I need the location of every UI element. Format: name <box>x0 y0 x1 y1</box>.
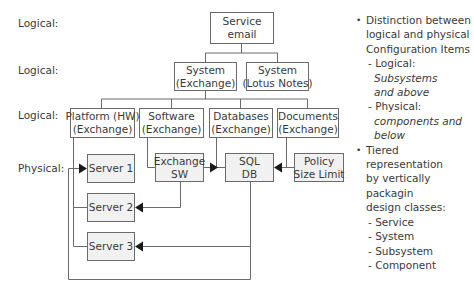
sub-physical: - Physical: <box>356 99 474 113</box>
class-system: - System <box>356 229 474 243</box>
class-component: - Component <box>356 258 474 272</box>
node-service-email: Service email <box>210 12 274 44</box>
node-label: Databases <box>213 110 269 123</box>
node-label: (Exchange) <box>73 123 133 136</box>
sub-physical-cont: components and <box>356 114 474 128</box>
note-line: Configuration Items <box>366 42 474 56</box>
node-policy-size-limit: Policy Size Limit <box>294 153 344 182</box>
arrow-policy-sqldb <box>274 163 282 173</box>
node-label: email <box>228 28 257 41</box>
node-label: (Exchange) <box>142 123 202 136</box>
sub-logical-cont: and above <box>356 85 474 99</box>
note-line: by vertically packagin <box>366 171 474 200</box>
note-line: design classes: <box>366 200 474 214</box>
node-exchange-sw: Exchange SW <box>155 153 204 182</box>
node-system-lotus-notes: System (Lotus Notes) <box>246 62 309 91</box>
class-service: - Service <box>356 215 474 229</box>
node-label: SW <box>171 168 188 181</box>
sub-logical: - Logical: Subsystems <box>356 56 474 85</box>
node-system-exchange: System (Exchange) <box>174 62 237 91</box>
node-label: System <box>186 64 225 77</box>
node-label: Documents <box>278 110 338 123</box>
node-server-1: Server 1 <box>87 154 135 183</box>
note-prefix: - Logical: <box>368 57 415 69</box>
note-italic: and above <box>374 86 429 98</box>
node-software: Software (Exchange) <box>139 108 204 138</box>
class-subsystem: - Subsystem <box>356 244 474 258</box>
node-documents: Documents (Exchange) <box>277 108 339 138</box>
node-label: Service <box>223 15 262 28</box>
note-italic: components and <box>374 115 462 127</box>
note-line: logical and physical <box>366 27 474 41</box>
node-label: (Exchange) <box>176 77 236 90</box>
arrow-server1 <box>79 164 87 174</box>
node-label: (Exchange) <box>278 123 338 136</box>
node-label: Policy <box>304 155 334 168</box>
note-prefix: - Physical: <box>368 100 421 112</box>
notes-panel: Distinction between logical and physical… <box>356 13 474 272</box>
note-line: Distinction between <box>366 13 474 27</box>
bullet-tiered: Tiered representation by vertically pack… <box>356 143 474 215</box>
node-label: (Lotus Notes) <box>242 77 312 90</box>
node-label: Server 3 <box>89 240 133 253</box>
node-label: (Exchange) <box>211 123 271 136</box>
node-label: Size Limit <box>294 168 345 181</box>
note-italic: Subsystems <box>374 72 437 84</box>
note-line: Tiered representation <box>366 143 474 172</box>
node-databases: Databases (Exchange) <box>209 108 273 138</box>
node-label: System <box>258 64 297 77</box>
node-label: Software <box>148 110 194 123</box>
node-label: Platform (HW) <box>65 110 139 123</box>
bullet-distinction: Distinction between logical and physical… <box>356 13 474 56</box>
node-platform-hw: Platform (HW) (Exchange) <box>70 108 135 138</box>
note-italic: below <box>374 129 405 141</box>
node-sql-db: SQL DB <box>225 153 274 182</box>
node-server-2: Server 2 <box>87 193 135 222</box>
node-server-3: Server 3 <box>87 232 135 261</box>
node-label: Server 1 <box>89 162 133 175</box>
node-label: Exchange <box>154 155 205 168</box>
node-label: Server 2 <box>89 201 133 214</box>
node-label: SQL <box>239 155 260 168</box>
arrow-server3 <box>135 242 143 252</box>
arrow-server2 <box>135 203 143 213</box>
sub-physical-cont2: below <box>356 128 474 142</box>
node-label: DB <box>242 168 257 181</box>
